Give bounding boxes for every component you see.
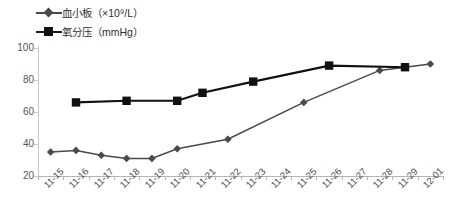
- series-line: [51, 64, 431, 158]
- data-point-diamond: [300, 99, 308, 107]
- data-point-diamond: [173, 145, 181, 153]
- data-point-square: [173, 97, 181, 105]
- data-point-diamond: [47, 148, 55, 156]
- data-point-diamond: [72, 147, 80, 155]
- data-point-square: [198, 89, 206, 97]
- data-point-diamond: [123, 155, 131, 163]
- line-chart: 血小板（×10⁹/L） 氧分压（mmHg） 10080604020 11-151…: [0, 0, 454, 216]
- data-point-square: [325, 61, 333, 69]
- data-point-diamond: [97, 151, 105, 159]
- data-point-diamond: [427, 60, 435, 68]
- data-point-diamond: [148, 155, 156, 163]
- data-point-square: [249, 77, 257, 85]
- data-point-square: [122, 97, 130, 105]
- data-point-square: [401, 63, 409, 71]
- data-point-diamond: [224, 135, 232, 143]
- series-plot-area: [0, 0, 454, 216]
- data-point-square: [72, 98, 80, 106]
